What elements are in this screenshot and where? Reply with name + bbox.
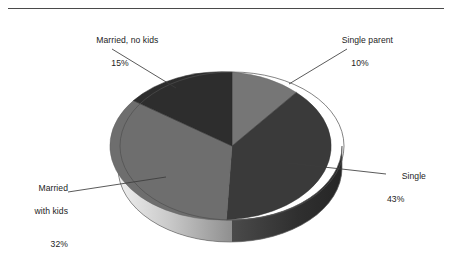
chart-page: Married, no kids 15% Single parent 10% M… xyxy=(0,0,450,263)
slice-label-single: Single 43% xyxy=(387,160,449,227)
slice-label-single-parent-pct: 10% xyxy=(300,58,420,69)
slice-label-married-with-kids-line1: Married xyxy=(38,183,68,193)
slice-label-married-with-kids: Married with kids 32% xyxy=(2,172,68,263)
pie-slices xyxy=(110,72,344,220)
slice-label-single-parent: Single parent 10% xyxy=(300,24,420,91)
slice-label-married-no-kids: Married, no kids 15% xyxy=(58,24,182,91)
slice-label-single-parent-name: Single parent xyxy=(342,35,393,45)
slice-label-married-no-kids-name: Married, no kids xyxy=(96,35,158,45)
slice-label-single-pct: 43% xyxy=(387,194,449,205)
slice-label-married-with-kids-line2: with kids xyxy=(2,206,68,217)
slice-label-married-no-kids-pct: 15% xyxy=(58,58,182,69)
pie-chart-figure: Married, no kids 15% Single parent 10% M… xyxy=(0,0,450,263)
slice-label-married-with-kids-pct: 32% xyxy=(2,239,68,250)
slice-label-single-name: Single xyxy=(402,171,426,181)
